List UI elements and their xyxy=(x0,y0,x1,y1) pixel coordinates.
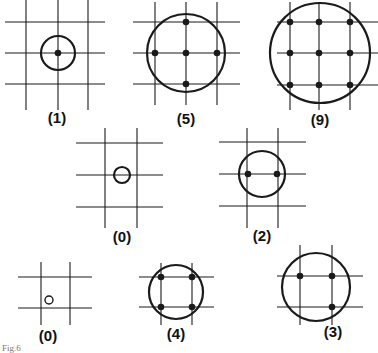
coverage-circle xyxy=(45,296,53,304)
intersection-dot xyxy=(245,171,252,178)
intersection-dot xyxy=(347,50,354,57)
intersection-dot xyxy=(183,19,190,26)
intersection-dot xyxy=(287,50,294,57)
panel-label: (4) xyxy=(167,325,185,342)
panel-9: (9) xyxy=(270,2,378,128)
intersection-dot xyxy=(274,171,281,178)
intersection-dot xyxy=(189,304,196,311)
intersection-dot xyxy=(287,82,294,89)
intersection-dot xyxy=(316,19,323,26)
intersection-dot xyxy=(152,50,159,57)
coverage-circle xyxy=(149,265,203,319)
panel-0-bottom: (0) xyxy=(18,262,92,344)
intersection-dot xyxy=(316,82,323,89)
intersection-dot xyxy=(183,81,190,88)
intersection-dot xyxy=(347,19,354,26)
intersection-dot xyxy=(297,273,304,280)
intersection-dot xyxy=(158,274,165,281)
panel-label: (9) xyxy=(311,111,329,128)
intersection-dot xyxy=(189,274,196,281)
panel-2: (2) xyxy=(219,128,306,244)
panel-label: (0) xyxy=(39,327,57,344)
diagram-canvas: (1)(5)(9)(0)(2)(0)(4)(3)Fig.6 xyxy=(0,0,378,353)
panel-0-middle: (0) xyxy=(76,128,163,245)
intersection-dot xyxy=(55,50,62,57)
intersection-dot xyxy=(287,19,294,26)
intersection-dot xyxy=(347,82,354,89)
panel-3: (3) xyxy=(277,245,363,340)
coverage-circle xyxy=(282,253,350,321)
panel-label: (3) xyxy=(324,323,342,340)
intersection-dot xyxy=(183,50,190,57)
panel-label: (2) xyxy=(253,227,271,244)
panel-label: (0) xyxy=(113,228,131,245)
panel-label: (5) xyxy=(177,110,195,127)
intersection-dot xyxy=(316,50,323,57)
panel-4: (4) xyxy=(139,263,214,342)
intersection-dot xyxy=(158,304,165,311)
panel-label: (1) xyxy=(48,109,66,126)
panel-1: (1) xyxy=(5,0,105,126)
figure-caption: Fig.6 xyxy=(2,343,21,353)
intersection-dot xyxy=(329,273,336,280)
intersection-dot xyxy=(214,50,221,57)
panel-5: (5) xyxy=(133,2,240,127)
intersection-dot xyxy=(329,304,336,311)
